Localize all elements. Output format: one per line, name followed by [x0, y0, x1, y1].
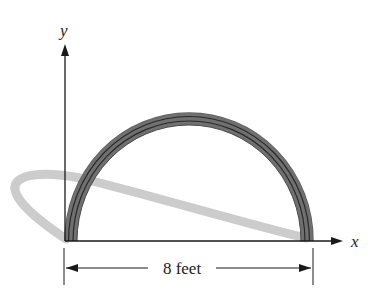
- right-arrow-icon: [299, 264, 311, 272]
- y-axis: y: [58, 21, 69, 241]
- left-arrow-icon: [66, 264, 78, 272]
- y-axis-arrowhead-icon: [61, 44, 69, 56]
- span-label: 8 feet: [163, 259, 202, 278]
- semicircular-arch: [65, 113, 313, 241]
- arch-shadow: [15, 174, 306, 239]
- y-axis-label: y: [58, 21, 68, 40]
- span-dimension: 8 feet: [64, 248, 313, 285]
- x-axis: x: [65, 232, 359, 251]
- x-axis-arrowhead-icon: [331, 237, 343, 245]
- arch-diagram: y x 8 feet: [0, 0, 376, 304]
- x-axis-label: x: [350, 232, 359, 251]
